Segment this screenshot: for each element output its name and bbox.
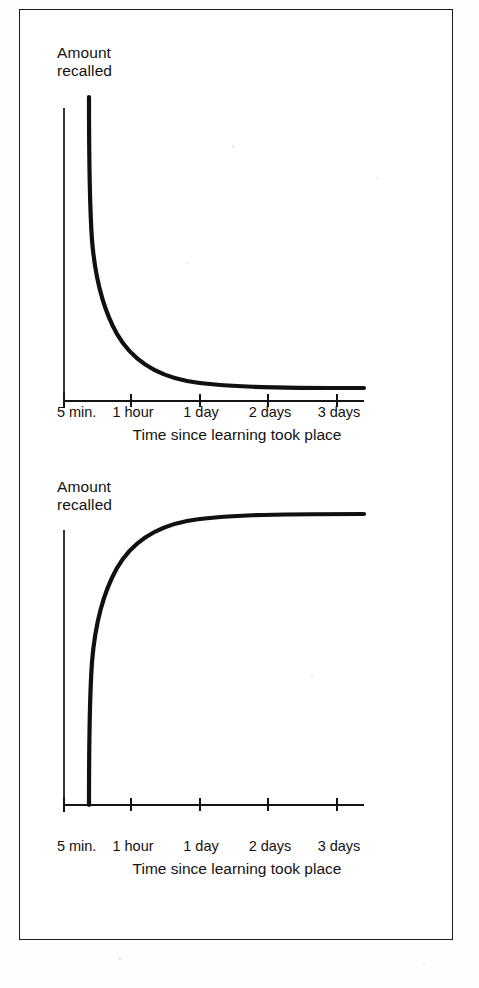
- figure-border-frame: Amount recalled 5 min. 1: [19, 9, 453, 940]
- tick-label-5min: 5 min.: [57, 838, 97, 854]
- x-axis-caption: Time since learning took place: [20, 860, 454, 878]
- plot-area-top: [20, 22, 454, 422]
- tick-label-3days: 3 days: [318, 838, 361, 854]
- tick-label-2days: 2 days: [249, 838, 292, 854]
- scan-speckle: [118, 957, 121, 960]
- x-axis-tick-labels-bottom: 5 min. 1 hour 1 day 2 days 3 days: [20, 838, 454, 858]
- scan-speckle: [423, 963, 425, 965]
- chart-forgetting-curve-inverted: Amount recalled 5 min. 1: [20, 456, 454, 896]
- tick-label-3days: 3 days: [318, 404, 361, 420]
- growth-curve: [89, 514, 364, 805]
- decay-curve: [89, 97, 364, 388]
- tick-label-1day: 1 day: [183, 838, 218, 854]
- tick-label-1hour: 1 hour: [112, 404, 153, 420]
- x-axis-tick-labels-top: 5 min. 1 hour 1 day 2 days 3 days: [20, 404, 454, 424]
- chart-forgetting-curve: Amount recalled 5 min. 1: [20, 22, 454, 462]
- tick-label-5min: 5 min.: [57, 404, 97, 420]
- tick-label-2days: 2 days: [249, 404, 292, 420]
- plot-area-bottom: [20, 456, 454, 856]
- x-axis-caption: Time since learning took place: [20, 426, 454, 444]
- scanned-page: Amount recalled 5 min. 1: [0, 0, 479, 988]
- tick-label-1hour: 1 hour: [112, 838, 153, 854]
- tick-label-1day: 1 day: [183, 404, 218, 420]
